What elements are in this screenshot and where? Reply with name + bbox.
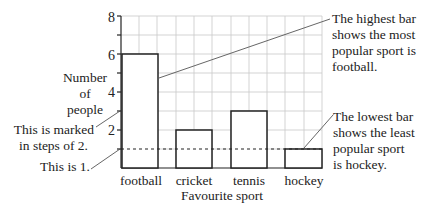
svg-text:The lowest bar: The lowest bar [333,109,414,124]
svg-text:cricket: cricket [176,173,213,188]
svg-text:football.: football. [332,59,377,74]
svg-text:8: 8 [108,10,115,25]
bar-hockey [285,149,322,168]
bar-football [122,54,158,168]
svg-text:This is 1.: This is 1. [40,159,90,174]
svg-text:The highest bar: The highest bar [332,11,416,26]
svg-text:of: of [79,86,91,101]
annotation-highest-bar: The highest bar shows the most popular s… [332,11,416,74]
svg-text:This is marked: This is marked [14,122,94,137]
y-axis-label: Number of people [63,70,108,117]
svg-text:popular sport is: popular sport is [332,43,416,58]
x-tick-labels: football cricket tennis hockey [120,173,324,188]
annotation-one: This is 1. [40,159,90,174]
svg-text:football: football [120,173,162,188]
annotation-lowest-bar: The lowest bar shows the least popular s… [333,109,415,172]
svg-text:6: 6 [108,48,115,63]
svg-text:in steps of 2.: in steps of 2. [19,138,88,153]
svg-text:shows the least: shows the least [333,125,415,140]
svg-text:2: 2 [108,123,115,138]
svg-text:hockey: hockey [285,173,324,188]
svg-text:is hockey.: is hockey. [333,157,387,172]
svg-text:4: 4 [108,85,115,100]
svg-text:tennis: tennis [233,173,265,188]
svg-text:people: people [67,102,103,117]
annotation-scale: This is marked in steps of 2. [14,122,94,153]
bar-chart: 2 4 6 8 Number of people football cricke… [0,0,426,213]
bar-tennis [231,111,267,168]
x-axis-label: Favourite sport [181,188,263,203]
svg-text:shows the most: shows the most [332,27,416,42]
svg-text:popular sport: popular sport [333,141,405,156]
svg-text:Number: Number [63,70,108,85]
